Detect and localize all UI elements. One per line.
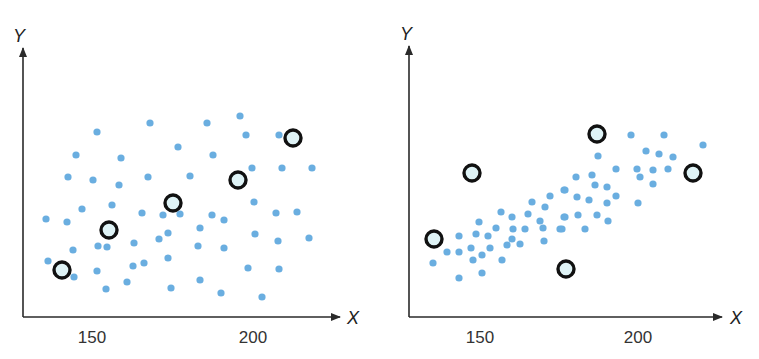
right-highlighted-point — [558, 261, 574, 277]
left-data-point — [144, 173, 151, 180]
left-data-point — [159, 211, 166, 218]
left-data-point — [155, 235, 162, 242]
right-data-point — [636, 173, 643, 180]
left-data-point — [220, 244, 227, 251]
right-data-point — [603, 199, 610, 206]
right-data-point — [492, 224, 499, 231]
left-data-point — [70, 273, 77, 280]
right-x-tick-150: 150 — [466, 328, 494, 347]
right-data-point — [541, 203, 548, 210]
right-data-point — [472, 230, 479, 237]
right-data-point — [660, 131, 667, 138]
right-data-point — [429, 259, 436, 266]
left-data-point — [129, 262, 136, 269]
left-data-point — [308, 164, 315, 171]
left-data-point — [167, 284, 174, 291]
right-highlighted-point — [426, 231, 442, 247]
left-data-point — [194, 242, 201, 249]
left-highlighted-point — [101, 222, 117, 238]
left-scatter-plot: Y X 150 200 — [13, 26, 360, 347]
left-data-point — [203, 119, 210, 126]
left-data-point — [272, 209, 279, 216]
left-data-point — [275, 265, 282, 272]
left-data-point — [278, 164, 285, 171]
left-x-tick-200: 200 — [239, 328, 267, 347]
right-data-point — [455, 232, 462, 239]
right-data-point — [581, 225, 588, 232]
right-data-point — [655, 150, 662, 157]
right-data-point — [649, 166, 656, 173]
right-data-point — [455, 274, 462, 281]
right-data-point — [478, 251, 485, 258]
right-data-point — [540, 237, 547, 244]
left-data-point — [117, 154, 124, 161]
left-data-point — [93, 128, 100, 135]
left-data-point — [89, 176, 96, 183]
left-data-point — [174, 143, 181, 150]
left-data-point — [248, 164, 255, 171]
right-data-point — [588, 171, 595, 178]
left-highlighted-point — [165, 195, 181, 211]
left-highlighted-point — [285, 130, 301, 146]
left-data-point — [251, 230, 258, 237]
right-highlighted-points — [426, 126, 701, 277]
left-y-axis-label: Y — [13, 26, 27, 46]
left-data-point — [250, 198, 257, 205]
right-data-point — [524, 210, 531, 217]
right-data-point — [591, 181, 598, 188]
right-data-point — [593, 211, 600, 218]
left-data-point — [78, 205, 85, 212]
left-data-point — [103, 243, 110, 250]
left-data-point — [258, 293, 265, 300]
right-highlighted-point — [464, 165, 480, 181]
right-data-point — [455, 248, 462, 255]
left-data-point — [196, 276, 203, 283]
left-data-point — [186, 172, 193, 179]
right-data-point — [467, 244, 474, 251]
right-y-axis-label: Y — [400, 24, 414, 44]
scatter-figure: Y X 150 200 Y X 150 200 — [0, 0, 759, 359]
right-data-point — [498, 256, 505, 263]
right-data-point — [594, 152, 601, 159]
right-data-point — [497, 208, 504, 215]
left-data-point — [140, 259, 147, 266]
right-data-point — [508, 235, 515, 242]
right-data-point — [573, 193, 580, 200]
right-scatter-plot: Y X 150 200 — [400, 24, 743, 347]
left-data-point — [42, 215, 49, 222]
right-data-point — [612, 165, 619, 172]
left-x-tick-150: 150 — [78, 328, 106, 347]
left-data-point — [274, 237, 281, 244]
right-data-point — [634, 199, 641, 206]
left-data-point — [164, 254, 171, 261]
left-data-point — [244, 264, 251, 271]
right-data-point — [642, 147, 649, 154]
right-data-point — [443, 248, 450, 255]
left-data-point — [220, 216, 227, 223]
right-data-point — [484, 232, 491, 239]
right-highlighted-point — [685, 165, 701, 181]
left-x-axis-label: X — [346, 308, 360, 328]
left-data-point — [63, 218, 70, 225]
right-data-point — [546, 192, 553, 199]
right-data-point — [478, 269, 485, 276]
left-data-point — [208, 211, 215, 218]
right-data-point — [664, 165, 671, 172]
right-x-tick-200: 200 — [624, 328, 652, 347]
left-data-point — [72, 151, 79, 158]
left-data-point — [209, 151, 216, 158]
left-data-point — [138, 209, 145, 216]
right-data-point — [528, 198, 535, 205]
right-data-point — [486, 244, 493, 251]
right-data-point — [561, 186, 568, 193]
left-data-point — [196, 224, 203, 231]
right-data-point — [699, 141, 706, 148]
left-data-point — [293, 208, 300, 215]
right-data-point — [627, 131, 634, 138]
right-data-point — [669, 153, 676, 160]
right-data-point — [508, 213, 515, 220]
left-data-point — [130, 239, 137, 246]
left-data-point — [242, 131, 249, 138]
right-data-point — [503, 241, 510, 248]
right-x-axis-label: X — [729, 308, 743, 328]
